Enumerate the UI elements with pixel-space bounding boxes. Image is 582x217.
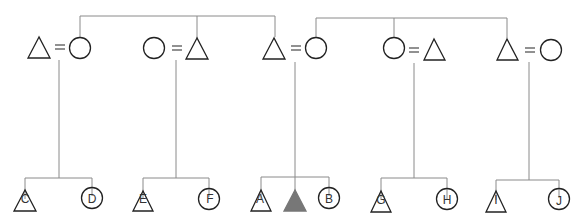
label-f: F (206, 192, 213, 206)
label-d: D (88, 192, 97, 206)
label-g: G (376, 193, 385, 207)
marriage-equals-icon (55, 45, 65, 49)
label-a: A (256, 192, 264, 206)
male-triangle-icon (28, 37, 50, 58)
female-circle-icon (384, 38, 405, 59)
male-triangle-icon (186, 38, 208, 59)
female-circle-icon (144, 38, 165, 59)
label-i: I (494, 193, 497, 207)
label-e: E (139, 192, 147, 206)
descent-lines (59, 60, 529, 180)
couple-4 (384, 38, 446, 61)
male-triangle-icon (497, 39, 518, 60)
label-b: B (325, 192, 333, 206)
label-h: H (443, 193, 452, 207)
male-triangle-icon (424, 39, 445, 60)
sibling-line-left (80, 16, 275, 37)
female-circle-icon (70, 38, 91, 59)
female-circle-icon (306, 38, 327, 59)
female-circle-icon (541, 40, 562, 61)
label-j: J (556, 194, 562, 208)
male-triangle-icon (263, 38, 285, 59)
marriage-equals-icon (291, 46, 301, 50)
couple-2 (144, 38, 209, 60)
couple-3 (263, 38, 327, 60)
couple-5 (497, 39, 562, 61)
ego-filled-triangle-icon (284, 190, 306, 211)
sibling-line-right (316, 18, 507, 38)
marriage-equals-icon (409, 48, 419, 52)
children (14, 188, 570, 213)
couple-1 (28, 37, 91, 59)
marriage-equals-icon (172, 46, 182, 50)
label-c: C (21, 192, 30, 206)
marriage-equals-icon (525, 48, 535, 52)
top-sibling-lines (80, 16, 507, 38)
kinship-diagram: C D E F A B G H I J (0, 0, 582, 217)
couples (28, 37, 562, 61)
children-bar-5 (496, 180, 559, 200)
